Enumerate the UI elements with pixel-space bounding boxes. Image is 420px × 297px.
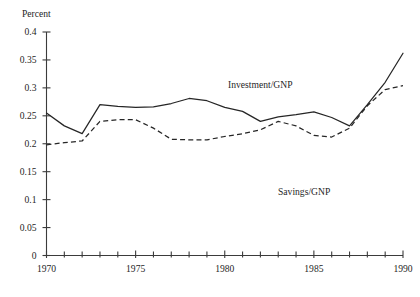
y-tick-label: 0 bbox=[0, 251, 37, 261]
y-tick-label: 0.35 bbox=[0, 55, 37, 65]
y-tick-label: 0.2 bbox=[0, 139, 37, 149]
chart-container: Percent 00.050.10.150.20.250.30.350.4 19… bbox=[0, 0, 420, 297]
annotation-savings-gnp: Savings/GNP bbox=[278, 186, 330, 197]
chart-plot-area bbox=[0, 0, 420, 297]
y-tick-label: 0.25 bbox=[0, 111, 37, 121]
y-axis-title: Percent bbox=[22, 8, 51, 19]
y-tick-label: 0.4 bbox=[0, 27, 37, 37]
x-tick-label: 1975 bbox=[111, 264, 161, 274]
annotation-investment-gnp: Investment/GNP bbox=[228, 79, 293, 90]
series-line-savings-gnp bbox=[47, 86, 404, 145]
y-tick-label: 0.05 bbox=[0, 223, 37, 233]
y-tick-label: 0.1 bbox=[0, 195, 37, 205]
x-tick-label: 1985 bbox=[289, 264, 339, 274]
x-tick-label: 1980 bbox=[200, 264, 250, 274]
axes-group bbox=[43, 32, 404, 258]
x-tick-label: 1990 bbox=[378, 264, 420, 274]
y-tick-label: 0.3 bbox=[0, 83, 37, 93]
x-tick-label: 1970 bbox=[22, 264, 72, 274]
y-tick-label: 0.15 bbox=[0, 167, 37, 177]
x-axis-ticks bbox=[47, 251, 404, 259]
series-group bbox=[47, 53, 404, 145]
